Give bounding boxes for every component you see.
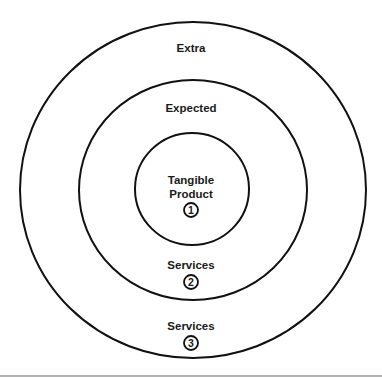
expected-title: Expected bbox=[165, 102, 216, 114]
services-3-label: Services bbox=[167, 320, 214, 332]
concentric-product-diagram: Extra Expected Tangible Product 1 Servic… bbox=[0, 0, 382, 378]
number-2: 2 bbox=[188, 276, 194, 288]
tangible-label-line1: Tangible bbox=[168, 174, 214, 186]
services-2-label: Services bbox=[167, 259, 214, 271]
extra-title: Extra bbox=[177, 42, 206, 54]
number-1: 1 bbox=[188, 204, 194, 216]
tangible-label-line2: Product bbox=[169, 188, 213, 200]
number-3: 3 bbox=[188, 337, 194, 349]
